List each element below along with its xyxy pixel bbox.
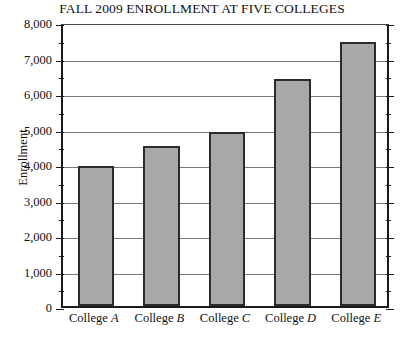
bar-a [78, 166, 114, 306]
bar-e [340, 42, 376, 306]
category-letter: E [373, 311, 381, 325]
major-tick [56, 309, 64, 310]
bar-chart-figure: FALL 2009 ENROLLMENT AT FIVE COLLEGES En… [0, 0, 404, 352]
x-tick-label: College C [200, 311, 250, 326]
major-tick [386, 203, 394, 204]
y-tick-label: 7,000 [4, 53, 52, 66]
category-prefix: College [135, 311, 177, 325]
major-tick [386, 25, 394, 26]
category-prefix: College [200, 311, 242, 325]
plot-area [61, 24, 389, 308]
bar-d [274, 79, 310, 306]
major-tick [386, 274, 394, 275]
category-prefix: College [69, 311, 111, 325]
category-prefix: College [331, 311, 373, 325]
major-tick [386, 132, 394, 133]
major-tick [386, 238, 394, 239]
major-tick [386, 61, 394, 62]
major-tick [386, 167, 394, 168]
x-tick-label: College D [265, 311, 316, 326]
major-tick [386, 309, 394, 310]
x-tick-label: College B [135, 311, 185, 326]
y-tick-label: 8,000 [4, 18, 52, 31]
category-letter: C [242, 311, 250, 325]
bar-c [209, 132, 245, 306]
bar-b [143, 146, 179, 306]
y-axis-tick-labels: 8,0007,0006,0005,0004,0003,0002,0001,000… [0, 24, 52, 308]
x-tick-label: College E [331, 311, 381, 326]
chart-title: FALL 2009 ENROLLMENT AT FIVE COLLEGES [0, 1, 404, 17]
y-tick-label: 1,000 [4, 266, 52, 279]
y-tick-label: 3,000 [4, 195, 52, 208]
y-tick-label: 0 [4, 302, 52, 315]
bar-series [63, 25, 387, 306]
y-tick-label: 4,000 [4, 160, 52, 173]
x-axis-tick-labels: College ACollege BCollege CCollege DColl… [61, 311, 389, 333]
y-tick-label: 6,000 [4, 89, 52, 102]
category-letter: B [177, 311, 185, 325]
category-letter: D [307, 311, 316, 325]
category-prefix: College [265, 311, 307, 325]
category-letter: A [111, 311, 119, 325]
x-tick-label: College A [69, 311, 119, 326]
y-tick-label: 5,000 [4, 124, 52, 137]
major-tick [386, 96, 394, 97]
y-tick-label: 2,000 [4, 231, 52, 244]
